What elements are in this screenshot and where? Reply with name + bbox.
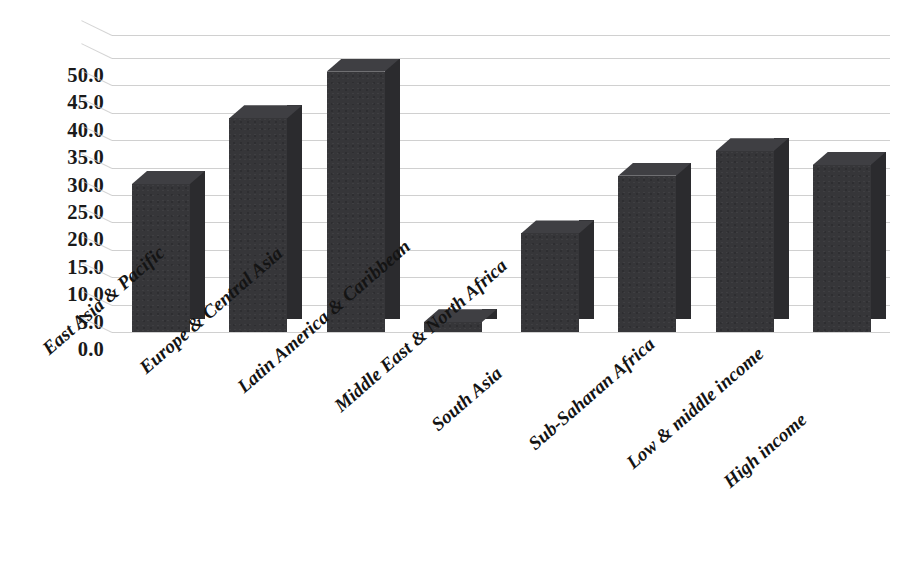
x-axis-category-label: Sub-Saharan Africa — [524, 333, 659, 455]
x-axis-category-label: South Asia — [427, 362, 507, 435]
x-axis-category-label: High income — [719, 408, 811, 492]
gridline — [112, 58, 890, 59]
bar-chart: 50.045.040.035.030.025.020.015.010.05.00… — [0, 0, 902, 581]
bar-side-face — [871, 152, 886, 319]
bar-front-face — [618, 176, 676, 332]
y-axis-tick-label: 35.0 — [26, 146, 104, 169]
bar-side-face — [287, 105, 302, 319]
bar-front-face — [521, 233, 579, 332]
bar-side-face — [385, 59, 400, 319]
bar-side-face — [579, 220, 594, 319]
bar — [716, 138, 774, 332]
bar — [521, 220, 579, 332]
gridline — [112, 85, 890, 86]
bar-front-face — [716, 151, 774, 332]
gridline — [112, 332, 890, 333]
bar-side-face — [676, 163, 691, 319]
bar-side-face — [190, 171, 205, 319]
bar-side-face — [774, 138, 789, 319]
bar — [618, 163, 676, 332]
bar — [813, 152, 871, 332]
gridline — [112, 35, 890, 36]
bar-front-face — [813, 165, 871, 332]
x-axis-labels: East Asia & PacificEurope & Central Asia… — [0, 337, 902, 581]
